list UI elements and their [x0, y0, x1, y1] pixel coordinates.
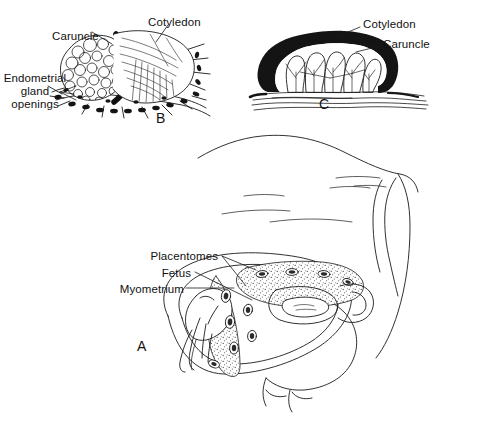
- label-myometrium: Myometrium: [88, 283, 184, 296]
- label-endometrial-gland-openings: Endometrial gland openings: [2, 72, 68, 111]
- label-placentomes: Placentomes: [98, 250, 218, 263]
- label-cotyledon-panel-b: Cotyledon: [148, 16, 201, 29]
- panel-letter-b: B: [156, 110, 165, 126]
- label-caruncle-panel-b: Caruncle: [52, 30, 99, 43]
- panel-letter-c: C: [319, 96, 329, 112]
- figure-artwork: [0, 0, 477, 422]
- panel-a-artwork: [164, 135, 418, 412]
- placentation-figure: Caruncle Cotyledon Endometrial gland ope…: [0, 0, 477, 422]
- label-cotyledon-panel-c: Cotyledon: [363, 18, 416, 31]
- panel-letter-a: A: [137, 338, 146, 354]
- label-endometrial-line-3: openings: [11, 98, 58, 110]
- label-endometrial-line-1: Endometrial: [4, 72, 66, 84]
- label-endometrial-line-2: gland: [21, 85, 50, 97]
- label-caruncle-panel-c: Caruncle: [383, 38, 430, 51]
- label-fetus: Fetus: [98, 267, 191, 280]
